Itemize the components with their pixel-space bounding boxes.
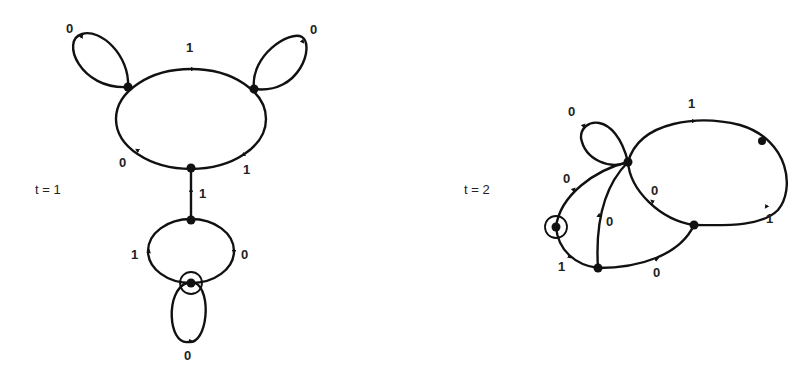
diagram-t1: t = 1 0 1 0 0 1 1 bbox=[35, 21, 317, 363]
node-start bbox=[552, 223, 561, 232]
arrow-loop-a bbox=[79, 36, 82, 40]
edge-r-p bbox=[628, 162, 694, 225]
node-r bbox=[690, 221, 699, 230]
label-s-down: 1 bbox=[558, 259, 565, 274]
label-top: 1 bbox=[186, 40, 193, 55]
label-s-up: 0 bbox=[563, 171, 570, 186]
label-bottom-loop: 0 bbox=[184, 348, 191, 363]
label-loop-b: 0 bbox=[310, 22, 317, 37]
small-cycle bbox=[148, 219, 234, 283]
node-t bbox=[758, 137, 766, 145]
state-diagrams: t = 1 0 1 0 0 1 1 bbox=[0, 0, 808, 375]
loop-b bbox=[254, 36, 307, 90]
node-p bbox=[624, 158, 633, 167]
diagram-title-t2: t = 2 bbox=[464, 182, 490, 197]
node-start bbox=[187, 279, 196, 288]
loop-p bbox=[581, 123, 628, 165]
edge-p-t-r bbox=[628, 121, 787, 226]
main-cycle bbox=[116, 69, 266, 169]
node-d bbox=[187, 216, 196, 225]
label-loop-p: 0 bbox=[568, 104, 575, 119]
label-mid: 0 bbox=[606, 214, 613, 229]
loop-s bbox=[172, 283, 206, 342]
label-loop-a: 0 bbox=[66, 21, 73, 36]
label-right: 1 bbox=[766, 211, 773, 226]
diagram-t2: t = 2 0 1 1 0 0 0 1 bbox=[464, 96, 787, 280]
node-c bbox=[187, 164, 196, 173]
label-small-right: 0 bbox=[241, 247, 248, 262]
label-inner: 0 bbox=[651, 183, 658, 198]
edge-q-r bbox=[598, 225, 694, 268]
loop-a bbox=[73, 33, 128, 87]
diagram-title-t1: t = 1 bbox=[35, 182, 61, 197]
label-small-left: 1 bbox=[131, 247, 138, 262]
label-stem: 1 bbox=[199, 186, 206, 201]
label-left-low: 0 bbox=[119, 155, 126, 170]
label-top: 1 bbox=[688, 96, 695, 111]
arrow-right bbox=[766, 201, 770, 207]
label-bottom: 0 bbox=[653, 265, 660, 280]
node-b bbox=[250, 85, 259, 94]
node-q bbox=[594, 264, 603, 273]
label-right-low: 1 bbox=[243, 162, 250, 177]
node-a bbox=[124, 83, 133, 92]
